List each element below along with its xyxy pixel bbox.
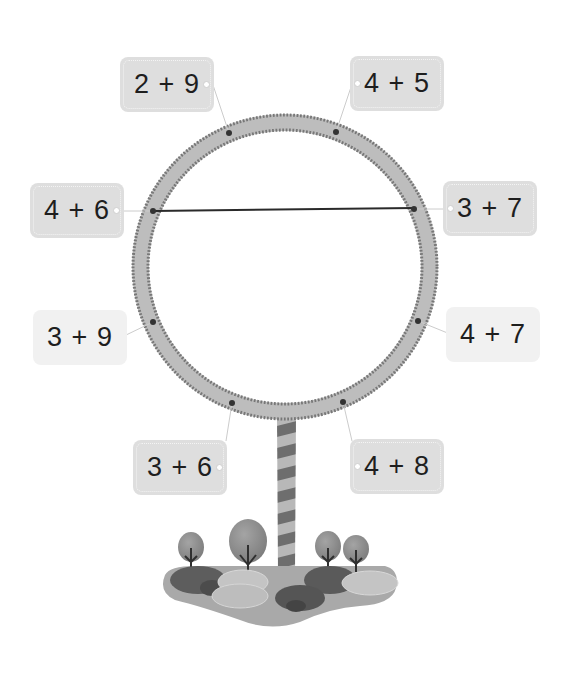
card-expression: 3 + 7 <box>457 193 523 224</box>
connector-port[interactable] <box>216 464 223 471</box>
dot-4-plus-8 <box>340 399 346 405</box>
card-expression: 3 + 9 <box>47 322 113 353</box>
card-expression: 4 + 8 <box>364 451 430 482</box>
card-expression: 4 + 5 <box>364 68 430 99</box>
connector-port[interactable] <box>203 81 210 88</box>
dot-3-plus-6 <box>229 400 235 406</box>
card-expression: 3 + 6 <box>147 452 213 483</box>
dot-3-plus-7 <box>411 206 417 212</box>
card-4-plus-7[interactable]: 4 + 7 <box>446 307 540 362</box>
connection-line <box>153 208 414 211</box>
card-expression: 4 + 6 <box>44 195 110 226</box>
dot-2-plus-9 <box>226 130 232 136</box>
ring <box>133 115 437 419</box>
card-4-plus-6[interactable]: 4 + 6 <box>30 183 124 238</box>
connector-port[interactable] <box>447 205 454 212</box>
bush-icon <box>342 571 398 595</box>
card-3-plus-9[interactable]: 3 + 9 <box>33 310 127 365</box>
card-4-plus-8[interactable]: 4 + 8 <box>350 439 444 494</box>
connector-port[interactable] <box>354 463 361 470</box>
card-2-plus-9[interactable]: 2 + 9 <box>120 57 214 112</box>
card-3-plus-7[interactable]: 3 + 7 <box>443 181 537 236</box>
tree-icon <box>229 519 267 572</box>
connector-port[interactable] <box>354 80 361 87</box>
card-expression: 2 + 9 <box>134 69 200 100</box>
tree-icon <box>315 531 341 572</box>
dot-4-plus-6 <box>150 208 156 214</box>
leader-lines <box>122 84 450 441</box>
card-expression: 4 + 7 <box>460 319 526 350</box>
dot-4-plus-5 <box>333 129 339 135</box>
matching-puzzle: 2 + 9 4 + 5 4 + 6 3 + 7 3 + 9 4 + 7 3 + … <box>0 0 565 674</box>
connector-port[interactable] <box>113 207 120 214</box>
striped-pole <box>277 418 296 572</box>
card-4-plus-5[interactable]: 4 + 5 <box>350 56 444 111</box>
dot-4-plus-7 <box>415 318 421 324</box>
dot-3-plus-9 <box>150 319 156 325</box>
card-3-plus-6[interactable]: 3 + 6 <box>133 440 227 495</box>
